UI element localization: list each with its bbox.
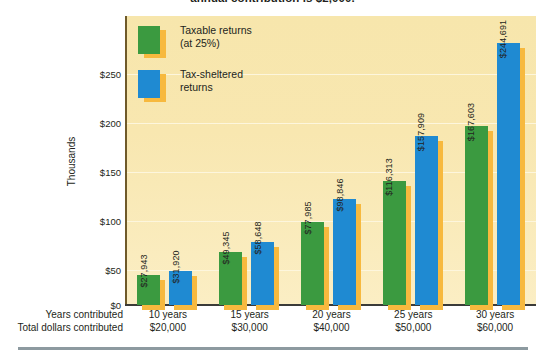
bar-body [465,126,488,305]
legend-label: Taxable returns (at 25%) [180,24,252,50]
bar-body [415,136,438,305]
bar-taxable-20-years: $77,985 [301,222,324,305]
bar-value-label: $49,345 [221,231,231,264]
chart-title: annual contribution is $2,000. [0,0,545,4]
legend-swatch-wrap [138,70,170,100]
bar-value-label: $98,846 [335,178,345,211]
bar-value-label: $58,648 [253,221,263,254]
bar-sheltered-10-years: $31,920 [169,271,192,305]
y-axis-tick: $250 [61,69,121,80]
bar-body [497,43,520,305]
legend-item-taxable: Taxable returns (at 25%) [138,24,313,60]
bar-taxable-15-years: $49,345 [219,252,242,305]
y-axis: Thousands $250 $200 $150 $100 $50 $0 [55,16,121,305]
x-axis-contribution-label: $60,000 [454,322,536,333]
y-axis-tick: $50 [61,265,121,276]
bar-taxable-25-years: $116,313 [383,181,406,305]
bar-sheltered-30-years: $244,691 [497,43,520,305]
x-axis-category-label: 10 years [127,309,209,320]
bar-taxable-30-years: $167,603 [465,126,488,305]
chart-legend: Taxable returns (at 25%) Tax-sheltered r… [138,24,313,112]
bar-sheltered-20-years: $98,846 [333,199,356,305]
bar-body [333,199,356,305]
legend-label: Tax-sheltered returns [180,68,243,94]
bar-value-label: $27,943 [139,254,149,287]
legend-swatch-wrap [138,26,170,56]
bar-sheltered-25-years: $157,909 [415,136,438,305]
legend-color-swatch-blue [138,70,160,98]
x-axis-contribution-label: $50,000 [372,322,454,333]
x-axis-row1-title: Years contributed [10,309,123,320]
x-axis-labels: Years contributed Total dollars contribu… [0,309,545,343]
x-axis-category-label: 30 years [454,309,536,320]
x-axis-row2-title: Total dollars contributed [10,322,123,333]
y-axis-title: Thousands [66,137,77,186]
y-axis-tick: $150 [61,167,121,178]
bar-value-label: $244,691 [498,20,508,58]
legend-color-swatch-green [138,26,160,54]
y-axis-tick: $200 [61,118,121,129]
bar-body [383,181,406,305]
bar-value-label: $157,909 [416,113,426,151]
footer-rule [18,347,528,350]
legend-item-tax-sheltered: Tax-sheltered returns [138,68,313,104]
x-axis-contribution-label: $20,000 [127,322,209,333]
x-axis-category-label: 25 years [372,309,454,320]
bar-value-label: $77,985 [303,201,313,234]
bar-value-label: $31,920 [171,250,181,283]
bar-taxable-10-years: $27,943 [137,275,160,305]
y-axis-tick: $100 [61,216,121,227]
x-axis-contribution-label: $30,000 [209,322,291,333]
x-axis-contribution-label: $40,000 [291,322,373,333]
bar-value-label: $116,313 [384,158,394,196]
x-axis-category-label: 20 years [291,309,373,320]
bar-value-label: $167,603 [466,103,476,141]
x-axis-category-label: 15 years [209,309,291,320]
bar-sheltered-15-years: $58,648 [251,242,274,305]
